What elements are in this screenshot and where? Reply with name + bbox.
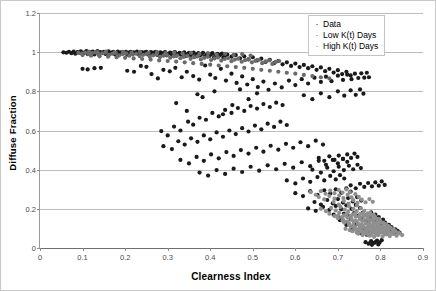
chart-figure: Diffuse Fraction Clearness Index 00.20.4… bbox=[0, 0, 436, 291]
data-point bbox=[183, 143, 187, 147]
data-point bbox=[217, 63, 221, 67]
legend-marker-icon: · bbox=[313, 19, 321, 30]
data-point bbox=[185, 54, 189, 58]
x-tick-mark bbox=[83, 248, 84, 251]
x-tick-label: 0.3 bbox=[162, 253, 172, 262]
data-point bbox=[343, 208, 347, 212]
data-point bbox=[121, 50, 125, 54]
data-point bbox=[353, 72, 357, 76]
data-point bbox=[328, 174, 332, 178]
x-tick-label: 0 bbox=[38, 253, 42, 262]
data-point bbox=[227, 128, 231, 132]
data-point bbox=[191, 123, 195, 127]
data-point bbox=[341, 157, 345, 161]
data-point bbox=[369, 223, 373, 227]
data-point bbox=[310, 97, 314, 101]
data-point bbox=[367, 75, 371, 79]
data-point bbox=[342, 94, 346, 98]
data-point bbox=[314, 139, 318, 143]
data-point bbox=[149, 72, 153, 76]
data-point bbox=[115, 55, 119, 59]
data-point bbox=[240, 52, 244, 56]
data-point bbox=[312, 200, 316, 204]
data-point bbox=[332, 158, 336, 162]
y-tick-label: 1 bbox=[32, 48, 36, 57]
legend-item[interactable]: ·High K(t) Days bbox=[313, 41, 378, 52]
data-point bbox=[293, 191, 297, 195]
data-point bbox=[183, 60, 187, 64]
data-point bbox=[195, 92, 199, 96]
data-point bbox=[341, 78, 345, 82]
data-point bbox=[245, 82, 249, 86]
legend-item[interactable]: ·Data bbox=[313, 19, 378, 30]
data-point bbox=[246, 57, 250, 61]
data-point bbox=[268, 105, 272, 109]
data-point bbox=[319, 207, 323, 211]
data-point bbox=[221, 112, 225, 116]
data-point bbox=[157, 58, 161, 62]
data-point bbox=[259, 127, 263, 131]
data-point bbox=[293, 83, 297, 87]
y-axis-title: Diffuse Fraction bbox=[5, 9, 21, 257]
data-point bbox=[166, 133, 170, 137]
data-point bbox=[375, 227, 379, 231]
data-point bbox=[293, 61, 297, 65]
data-point bbox=[373, 180, 377, 184]
data-point bbox=[327, 212, 331, 216]
data-point bbox=[225, 64, 229, 68]
legend-item[interactable]: ·Low K(t) Days bbox=[313, 30, 378, 41]
data-point bbox=[376, 232, 380, 236]
data-point bbox=[355, 155, 359, 159]
data-point bbox=[251, 67, 255, 71]
data-point bbox=[197, 171, 201, 175]
data-point bbox=[323, 69, 327, 73]
x-tick-label: 0.2 bbox=[120, 253, 130, 262]
data-point bbox=[353, 212, 357, 216]
data-point bbox=[261, 79, 265, 83]
data-point bbox=[341, 196, 345, 200]
data-point bbox=[221, 135, 225, 139]
data-point bbox=[273, 81, 277, 85]
data-point bbox=[363, 220, 367, 224]
data-point bbox=[361, 224, 365, 228]
data-point bbox=[172, 50, 176, 54]
data-point bbox=[173, 66, 177, 70]
data-point bbox=[156, 76, 160, 80]
data-point bbox=[197, 52, 201, 56]
data-point bbox=[345, 152, 349, 156]
data-point bbox=[268, 69, 272, 73]
series-high-k-t-days bbox=[309, 187, 405, 239]
data-point bbox=[341, 218, 345, 222]
data-point bbox=[327, 194, 331, 198]
data-point bbox=[202, 133, 206, 137]
data-point bbox=[329, 206, 333, 210]
data-point bbox=[334, 177, 338, 181]
data-point bbox=[232, 154, 236, 158]
data-point bbox=[272, 125, 276, 129]
data-point bbox=[325, 166, 329, 170]
data-point bbox=[213, 76, 217, 80]
data-point bbox=[161, 68, 165, 72]
data-point bbox=[359, 166, 363, 170]
data-point bbox=[342, 168, 346, 172]
data-point bbox=[377, 184, 381, 188]
data-point bbox=[242, 66, 246, 70]
data-point bbox=[285, 178, 289, 182]
data-point bbox=[359, 206, 363, 210]
y-tick-label: 0.8 bbox=[26, 87, 36, 96]
data-point bbox=[202, 159, 206, 163]
data-point bbox=[253, 124, 257, 128]
data-point bbox=[249, 53, 253, 57]
data-point bbox=[208, 137, 212, 141]
data-point bbox=[134, 52, 138, 56]
x-tick-label: 0.6 bbox=[290, 253, 300, 262]
data-point bbox=[319, 75, 323, 79]
data-point bbox=[224, 78, 228, 82]
data-point bbox=[208, 73, 212, 77]
data-point bbox=[345, 160, 349, 164]
data-point bbox=[123, 56, 127, 60]
data-point bbox=[357, 195, 361, 199]
data-point bbox=[256, 85, 260, 89]
data-point bbox=[92, 66, 96, 70]
data-point bbox=[310, 168, 314, 172]
